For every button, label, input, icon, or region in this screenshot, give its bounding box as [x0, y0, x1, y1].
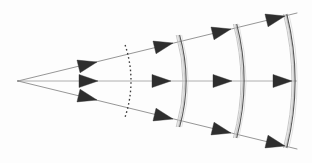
point-source-marker: [17, 80, 19, 82]
wavefront-canvas: [0, 0, 312, 163]
wavefront-figure: [0, 0, 312, 163]
